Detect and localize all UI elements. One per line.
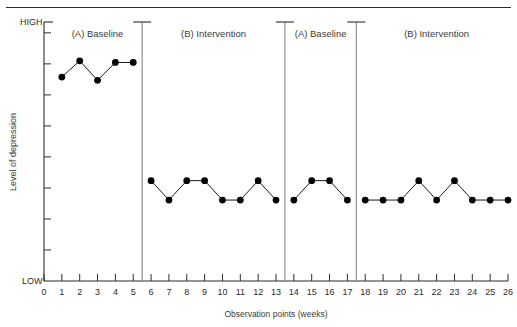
phase-label: (B) Intervention [181,28,246,39]
x-tick-label: 18 [360,287,370,297]
x-tick-label: 3 [95,287,100,297]
x-tick-label: 12 [253,287,263,297]
x-tick-label: 1 [59,287,64,297]
x-tick-label: 19 [378,287,388,297]
phase-labels: (A) Baseline(B) Intervention(A) Baseline… [72,28,469,39]
x-tick-label: 9 [202,287,207,297]
x-tick-label: 8 [184,287,189,297]
x-tick-label: 6 [149,287,154,297]
x-tick-label: 21 [414,287,424,297]
x-tick-label: 17 [342,287,352,297]
x-axis-title: Observation points (weeks) [225,309,328,319]
phase-label: (A) Baseline [72,28,124,39]
x-tick-label: 0 [41,287,46,297]
y-axis-title: Level of depression [8,113,18,191]
x-tick-label: 10 [217,287,227,297]
x-tick-label: 25 [485,287,495,297]
x-tick-label: 16 [325,287,335,297]
x-tick-label: 23 [449,287,459,297]
x-tick-label: 26 [503,287,513,297]
x-tick-label: 2 [77,287,82,297]
y-axis-high-label: HIGH [20,17,43,27]
phase-label: (B) Intervention [404,28,469,39]
phase-label: (A) Baseline [295,28,347,39]
x-tick-label: 22 [432,287,442,297]
x-tick-label: 14 [289,287,299,297]
x-tick-label: 20 [396,287,406,297]
chart-text-layer: HIGH LOW Level of depression Observation… [0,0,517,327]
x-tick-label: 24 [467,287,477,297]
x-axis-tick-labels: 0123456789101112131415161718192021222324… [41,287,513,297]
x-tick-label: 11 [236,287,245,297]
x-tick-label: 4 [113,287,118,297]
x-tick-label: 15 [307,287,317,297]
figure-container: HIGH LOW Level of depression Observation… [0,0,517,327]
x-tick-label: 5 [131,287,136,297]
x-tick-label: 13 [271,287,281,297]
y-axis-low-label: LOW [22,276,43,286]
x-tick-label: 7 [166,287,171,297]
